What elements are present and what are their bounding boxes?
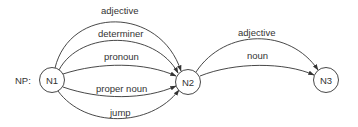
np-label: NP: (15, 75, 31, 86)
edge-label-adjective-1: adjective (101, 5, 139, 16)
node-n3: N3 (314, 68, 339, 93)
node-n1-label: N1 (46, 75, 58, 86)
edge-n2-n3-noun (200, 65, 314, 76)
edge-label-adjective-2: adjective (238, 27, 276, 38)
edge-label-proper-noun: proper noun (96, 83, 147, 94)
node-n1: N1 (40, 68, 65, 93)
edge-label-jump: jump (109, 107, 131, 118)
edge-label-determiner: determiner (98, 28, 143, 39)
node-n3-label: N3 (320, 75, 332, 86)
node-n2-label: N2 (182, 77, 194, 88)
edge-label-pronoun: pronoun (104, 51, 139, 62)
edge-label-noun: noun (247, 50, 268, 61)
node-n2: N2 (176, 70, 201, 95)
edge-n1-n2-pronoun (63, 65, 176, 76)
network-diagram: NP: adjective determiner pronoun proper … (0, 0, 358, 127)
